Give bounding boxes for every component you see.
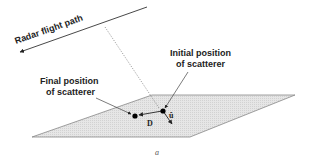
displacement-vector-label: D — [147, 119, 153, 128]
initial-position-label-line1: Initial position — [170, 48, 231, 58]
final-position-label-line2: of scatterer — [46, 87, 96, 97]
ground-plane — [32, 95, 295, 137]
final-scatterer-dot — [132, 113, 137, 118]
unit-vector-label: û — [169, 111, 174, 120]
flight-path-label: Radar flight path — [13, 13, 84, 46]
final-position-label-line1: Final position — [40, 76, 99, 86]
insar-geometry-diagram: Radar flight path Initial position of sc… — [0, 0, 309, 160]
initial-scatterer-dot — [160, 108, 165, 113]
figure-caption: a — [155, 148, 159, 157]
initial-position-label-line2: of scatterer — [176, 59, 226, 69]
